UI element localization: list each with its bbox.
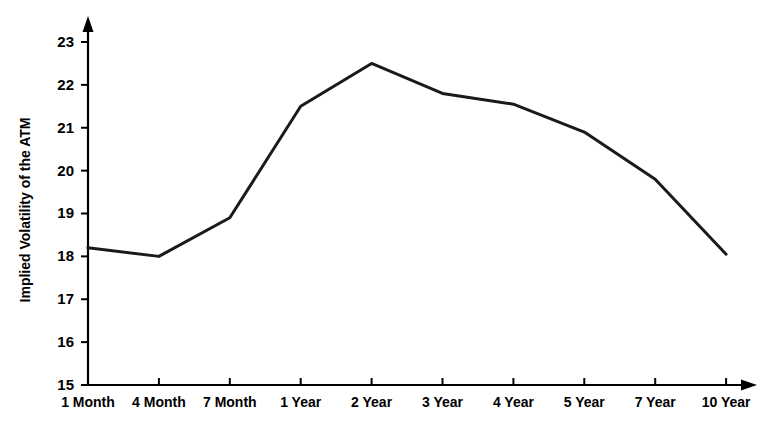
implied-volatility-line-chart: Implied Volatility of the ATM 1516171819… [0, 0, 768, 425]
x-tick-label: 10 Year [702, 394, 751, 410]
x-tick-label: 7 Month [203, 394, 257, 410]
y-tick-label: 17 [57, 290, 74, 307]
y-axis-ticks: 151617181920212223 [57, 33, 88, 393]
y-tick-label: 15 [57, 376, 74, 393]
x-tick-label: 5 Year [564, 394, 606, 410]
y-tick-label: 23 [57, 33, 74, 50]
y-tick-label: 18 [57, 247, 74, 264]
x-tick-label: 2 Year [351, 394, 393, 410]
x-tick-label: 4 Year [493, 394, 535, 410]
chart-container: Implied Volatility of the ATM 1516171819… [0, 0, 768, 425]
y-axis: 151617181920212223 [57, 16, 93, 393]
x-tick-label: 7 Year [635, 394, 677, 410]
y-tick-label: 22 [57, 76, 74, 93]
y-axis-title-text: Implied Volatility of the ATM [17, 118, 33, 303]
y-axis-title: Implied Volatility of the ATM [17, 118, 33, 303]
data-series-line [88, 63, 726, 256]
x-tick-label: 1 Year [280, 394, 322, 410]
x-tick-label: 1 Month [61, 394, 115, 410]
x-axis [88, 378, 757, 391]
x-tick-label: 4 Month [132, 394, 186, 410]
y-tick-label: 19 [57, 204, 74, 221]
x-axis-tick-labels: 1 Month4 Month7 Month1 Year2 Year3 Year4… [61, 394, 751, 410]
y-tick-label: 16 [57, 333, 74, 350]
x-tick-label: 3 Year [422, 394, 464, 410]
y-axis-arrow-icon [83, 16, 94, 32]
y-tick-label: 21 [57, 119, 74, 136]
y-tick-label: 20 [57, 162, 74, 179]
x-axis-arrow-icon [741, 380, 757, 391]
